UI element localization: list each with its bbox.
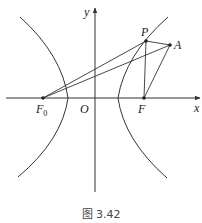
y-axis-label: y [83,5,90,19]
x-axis-label: x [193,101,200,115]
f0-label: F0 [35,102,47,118]
point-f0 [41,96,45,100]
hyperbola-diagram: y x O F0 F P A 图 3.42 [0,0,202,223]
segment-a-f [144,45,170,98]
point-a [168,43,172,47]
segment-p-a [146,41,170,45]
point-p [144,39,148,43]
segment-f0-a [43,45,170,98]
p-label: P [140,25,149,39]
segment-p-f [144,41,146,98]
figure-caption: 图 3.42 [82,208,121,221]
origin-label: O [80,102,89,116]
a-label: A [173,38,182,52]
point-f [142,96,146,100]
f-label: F [137,102,146,116]
